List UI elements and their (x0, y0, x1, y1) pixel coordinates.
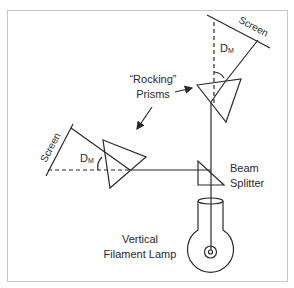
left-dm-label: DM (80, 152, 94, 164)
beam-splitter-label-line2: Splitter (230, 177, 265, 189)
prisms-label-line1: “Rocking” (129, 73, 176, 85)
arrow-to-left-prism (137, 107, 152, 129)
lamp-label-line2: Filament Lamp (104, 248, 177, 260)
beam-splitter-label-line1: Beam (230, 162, 259, 174)
arrow-to-top-prism (175, 88, 192, 92)
top-screen-label: Screen (237, 14, 270, 39)
prisms-label-line2: Prisms (136, 88, 170, 100)
top-angle-arc (214, 72, 224, 78)
lamp-label-line1: Vertical (122, 233, 158, 245)
left-angle-arc (98, 157, 102, 170)
top-prism (197, 79, 241, 122)
optics-diagram: Screen Screen DM DM “Rocking” Prisms Bea… (0, 0, 294, 288)
top-dm-label: DM (220, 42, 234, 54)
filament-inner (209, 250, 213, 254)
top-deviated-ray (211, 82, 225, 102)
left-prism (103, 140, 146, 188)
left-screen-label: Screen (38, 131, 63, 164)
